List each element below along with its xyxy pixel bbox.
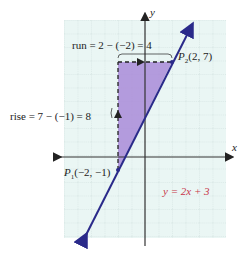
x-axis-label: x: [231, 141, 237, 153]
slope-diagram: y x run = 2 − (−2) = 4 rise = 7 − (−1) =…: [0, 0, 247, 262]
equation-label: y = 2x + 3: [162, 185, 210, 197]
point-p2: [170, 60, 174, 64]
run-label: run = 2 − (−2) = 4: [72, 39, 152, 52]
y-axis-label: y: [149, 6, 155, 18]
rise-label: rise = 7 − (−1) = 8: [10, 110, 92, 123]
point-p1: [116, 168, 120, 172]
